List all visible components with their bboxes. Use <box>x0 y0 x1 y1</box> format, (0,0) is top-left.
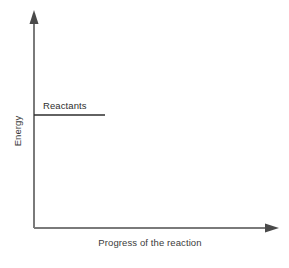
chart-canvas: Reactants Energy Progress of the reactio… <box>0 0 289 268</box>
energy-profile-diagram: Reactants Energy Progress of the reactio… <box>0 0 289 268</box>
reactants-level-label: Reactants <box>43 100 87 111</box>
y-axis-title: Energy <box>12 116 23 147</box>
x-axis-title: Progress of the reaction <box>98 237 201 248</box>
